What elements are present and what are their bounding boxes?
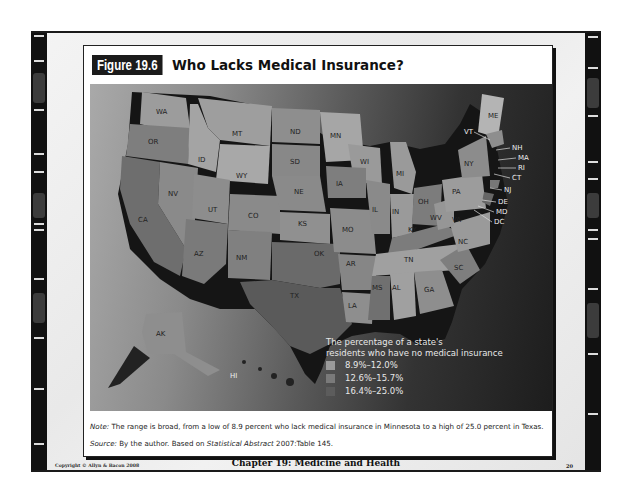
figure-card: Figure 19.6 Who Lacks Medical Insurance? — [83, 45, 553, 457]
figure-header: Figure 19.6 Who Lacks Medical Insurance? — [92, 54, 404, 76]
label-oh: OH — [418, 198, 429, 206]
label-in: IN — [392, 208, 399, 216]
legend-item: 16.4%–25.0% — [326, 385, 503, 398]
label-ny: NY — [464, 160, 474, 168]
figure-caption: Note: The range is broad, from a low of … — [90, 418, 552, 452]
label-mn: MN — [330, 132, 341, 140]
label-ma: MA — [518, 154, 529, 162]
film-strip-right — [585, 33, 601, 470]
legend-item: 12.6%–15.7% — [326, 372, 503, 385]
label-me: ME — [488, 112, 498, 120]
figure-title: Who Lacks Medical Insurance? — [172, 57, 404, 73]
legend-title-line1: The percentage of a state's — [326, 337, 503, 348]
label-nm: NM — [236, 254, 247, 262]
slide: Figure 19.6 Who Lacks Medical Insurance? — [31, 31, 601, 472]
legend-swatch — [326, 387, 335, 396]
film-strip-left — [31, 33, 47, 470]
note-label: Note: — [90, 422, 109, 431]
label-wa: WA — [156, 108, 168, 116]
label-ar: AR — [346, 260, 356, 268]
label-ri: RI — [518, 164, 525, 172]
map-legend: The percentage of a state's residents wh… — [326, 337, 503, 398]
slide-footer: Copyright © Allyn & Bacon 2008 Chapter 1… — [31, 458, 601, 472]
legend-label: 8.9%–12.0% — [345, 360, 398, 371]
label-il: IL — [372, 206, 378, 214]
label-mt: MT — [232, 130, 243, 138]
label-vt: VT — [464, 128, 474, 136]
label-sc: SC — [454, 264, 463, 272]
label-co: CO — [248, 212, 259, 220]
legend-title-line2: residents who have no medical insurance — [326, 348, 503, 359]
label-va: VA — [452, 216, 461, 224]
source-label: Source: — [90, 439, 117, 448]
label-or: OR — [148, 138, 159, 146]
source-text: By the author. Based on — [117, 439, 207, 448]
label-tx: TX — [289, 292, 299, 300]
label-nj: NJ — [504, 186, 511, 194]
legend-item: 8.9%–12.0% — [326, 359, 503, 372]
legend-swatch — [326, 361, 335, 370]
label-ut: UT — [208, 206, 218, 214]
label-hi: HI — [230, 372, 237, 380]
legend-label: 12.6%–15.7% — [345, 373, 403, 384]
label-ak: AK — [156, 330, 166, 338]
label-ct: CT — [512, 174, 522, 182]
page-number: 20 — [566, 463, 573, 469]
label-sd: SD — [290, 158, 300, 166]
us-insurance-map: WA OR CA NV ID MT WY UT AZ CO NM ND SD N… — [90, 84, 552, 411]
label-ca: CA — [138, 216, 148, 224]
label-mi: MI — [396, 170, 404, 178]
label-dc: DC — [494, 218, 504, 226]
label-ok: OK — [314, 250, 325, 258]
label-nv: NV — [168, 190, 178, 198]
label-nh: NH — [512, 144, 523, 152]
legend-swatch — [326, 374, 335, 383]
caption-source: Source: By the author. Based on Statisti… — [90, 435, 552, 452]
label-ms: MS — [372, 284, 383, 292]
label-ky: KY — [408, 226, 417, 234]
label-wv: WV — [430, 214, 442, 222]
label-ga: GA — [424, 286, 434, 294]
label-de: DE — [498, 198, 508, 206]
label-pa: PA — [452, 188, 461, 196]
source-table: 2007:Table 145. — [274, 439, 333, 448]
legend-label: 16.4%–25.0% — [345, 386, 403, 397]
label-nd: ND — [290, 128, 301, 136]
source-title: Statistical Abstract — [207, 439, 274, 448]
label-az: AZ — [194, 250, 204, 258]
label-ks: KS — [298, 220, 308, 228]
label-tn: TN — [403, 256, 414, 264]
chapter-title: Chapter 19: Medicine and Health — [31, 458, 601, 468]
states-pacific — [108, 312, 294, 388]
note-text: The range is broad, from a low of 8.9 pe… — [109, 422, 543, 431]
label-ne: NE — [294, 188, 304, 196]
label-wy: WY — [236, 172, 248, 180]
label-wi: WI — [360, 158, 369, 166]
label-id: ID — [198, 156, 205, 164]
label-mo: MO — [342, 226, 354, 234]
caption-note: Note: The range is broad, from a low of … — [90, 418, 552, 435]
label-nc: NC — [458, 238, 468, 246]
label-al: AL — [392, 284, 401, 292]
figure-number-badge: Figure 19.6 — [92, 55, 162, 75]
label-md: MD — [496, 208, 507, 216]
label-la: LA — [348, 302, 357, 310]
label-ia: IA — [336, 180, 343, 188]
